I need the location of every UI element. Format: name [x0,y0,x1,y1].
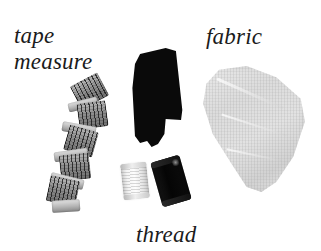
object-tape-measure [44,78,120,220]
label-thread: thread [136,223,196,246]
spool-white-cap-bottom [123,193,149,201]
black-cloth-shape [126,48,190,148]
sewing-objects-figure: tape measure fabric thread [0,0,321,251]
spool-white-cap-top [120,162,146,170]
object-fabric-swatch [200,66,306,192]
spool-dark-cap-bottom [161,193,191,207]
spool-white-body [120,162,150,201]
label-tape-measure-line2: measure [14,50,92,73]
spool-dark-body [150,155,192,207]
object-spool-dark [156,158,186,204]
label-tape-measure-line1: tape [14,24,54,47]
object-black-cloth [126,48,190,148]
fabric-swatch-shape [200,66,306,192]
object-spool-white [122,163,148,199]
label-fabric: fabric [206,25,262,48]
tape-fold [52,199,81,213]
